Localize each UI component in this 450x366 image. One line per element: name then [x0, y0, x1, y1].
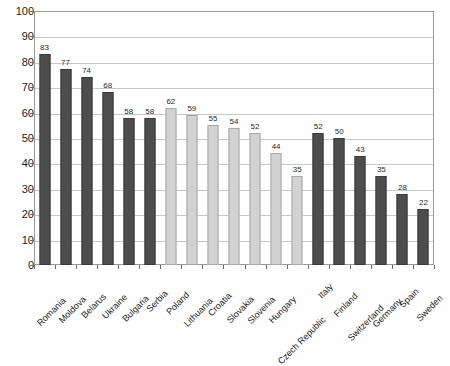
bar[interactable] — [334, 138, 345, 265]
bar-value-label: 59 — [187, 104, 196, 113]
x-tick-mark — [392, 265, 393, 269]
bar[interactable] — [376, 176, 387, 265]
x-tick-mark — [139, 265, 140, 269]
bar[interactable] — [207, 125, 218, 265]
x-axis-label: Poland — [184, 270, 211, 297]
bar-slot: 83 — [34, 11, 55, 265]
x-tick-mark — [118, 265, 119, 269]
x-tick-mark — [76, 265, 77, 269]
x-tick-mark — [434, 265, 435, 269]
bar[interactable] — [102, 92, 113, 265]
bar[interactable] — [123, 118, 134, 265]
bar-value-label: 35 — [293, 165, 302, 174]
bar-value-label: 77 — [61, 58, 70, 67]
bar[interactable] — [250, 133, 261, 265]
bar[interactable] — [186, 115, 197, 265]
bar[interactable] — [397, 194, 408, 265]
x-tick-mark — [287, 265, 288, 269]
x-tick-mark — [97, 265, 98, 269]
x-axis-label-text: Italy — [316, 282, 335, 301]
x-tick-mark — [181, 265, 182, 269]
bar-slot: 55 — [202, 11, 223, 265]
bars-layer: 83777468585862595554524435525043352822 — [34, 11, 434, 265]
bar-slot: 43 — [350, 11, 371, 265]
bar[interactable] — [313, 133, 324, 265]
bar-slot: 28 — [392, 11, 413, 265]
bar-slot: 58 — [139, 11, 160, 265]
bar[interactable] — [271, 153, 282, 265]
bar-value-label: 43 — [356, 145, 365, 154]
bar-slot: 52 — [308, 11, 329, 265]
bar-value-label: 35 — [377, 165, 386, 174]
bar[interactable] — [292, 176, 303, 265]
bar-slot: 35 — [371, 11, 392, 265]
bar-value-label: 68 — [103, 81, 112, 90]
bar-value-label: 50 — [335, 127, 344, 136]
x-axis-label-text: Sweden — [415, 293, 445, 323]
x-axis-label: Sweden — [438, 270, 450, 300]
x-tick-mark — [308, 265, 309, 269]
x-tick-mark — [223, 265, 224, 269]
bar[interactable] — [418, 209, 429, 265]
bar-slot: 74 — [76, 11, 97, 265]
x-tick-mark — [245, 265, 246, 269]
bar[interactable] — [81, 77, 92, 265]
x-tick-mark — [329, 265, 330, 269]
x-tick-mark — [371, 265, 372, 269]
bar-slot: 68 — [97, 11, 118, 265]
bar-slot: 62 — [160, 11, 181, 265]
x-tick-mark — [266, 265, 267, 269]
bar-slot: 59 — [181, 11, 202, 265]
bar-value-label: 52 — [251, 122, 260, 131]
bar-value-label: 83 — [40, 43, 49, 52]
bar-value-label: 55 — [208, 114, 217, 123]
bar-value-label: 44 — [272, 142, 281, 151]
x-tick-mark — [55, 265, 56, 269]
bar-value-label: 74 — [82, 66, 91, 75]
bar-value-label: 54 — [230, 117, 239, 126]
bar[interactable] — [165, 108, 176, 265]
bar-value-label: 58 — [145, 107, 154, 116]
x-tick-mark — [413, 265, 414, 269]
bar-value-label: 52 — [314, 122, 323, 131]
bar-value-label: 58 — [124, 107, 133, 116]
bar-slot: 35 — [287, 11, 308, 265]
bar-slot: 54 — [223, 11, 244, 265]
x-tick-mark — [160, 265, 161, 269]
bar[interactable] — [60, 69, 71, 265]
bar[interactable] — [355, 156, 366, 265]
bar-slot: 22 — [413, 11, 434, 265]
bar[interactable] — [144, 118, 155, 265]
bar-value-label: 62 — [166, 97, 175, 106]
bar-slot: 77 — [55, 11, 76, 265]
bar-value-label: 22 — [419, 198, 428, 207]
bar-slot: 44 — [266, 11, 287, 265]
x-tick-mark — [34, 265, 35, 269]
x-axis-labels: RomaniaMoldovaBelarusUkraineBulgariaSerb… — [34, 270, 434, 352]
bar-value-label: 28 — [398, 183, 407, 192]
x-tick-mark — [350, 265, 351, 269]
bar-slot: 52 — [245, 11, 266, 265]
x-axis-label: Italy — [328, 270, 347, 289]
bar[interactable] — [39, 54, 50, 265]
bar[interactable] — [228, 128, 239, 265]
bar-slot: 50 — [329, 11, 350, 265]
x-tick-mark — [202, 265, 203, 269]
x-axis-label-text: Czech Republic — [276, 315, 328, 366]
bar-slot: 58 — [118, 11, 139, 265]
y-axis: 0102030405060708090100 — [0, 11, 34, 265]
